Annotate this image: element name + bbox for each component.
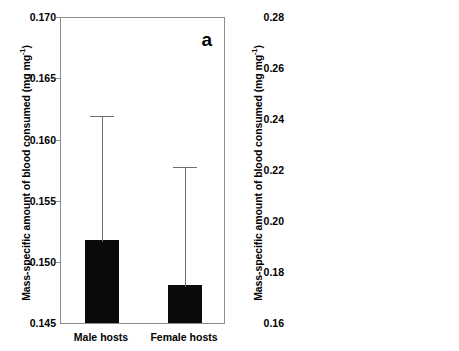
panel-b-ytick-028: 0.28	[264, 12, 284, 22]
panel-a-tick-mark-0	[56, 17, 61, 18]
bar-male-hosts[interactable]	[85, 240, 119, 323]
panel-a-ytick-0150: 0.150	[30, 257, 56, 267]
panel-a-xlabel-male: Male hosts	[74, 330, 128, 344]
panel-a-ytick-0145: 0.145	[30, 318, 56, 328]
panel-a-letter: a	[201, 30, 212, 49]
errorbar-cap-male-hosts	[90, 116, 114, 117]
panel-b-ytick-026: 0.26	[264, 63, 284, 73]
panel-a-tick-mark-3	[56, 201, 61, 202]
panel-a-ytick-0160: 0.160	[30, 135, 56, 145]
panel-b-y-tick-labels: 0.28 0.26 0.24 0.22 0.20 0.18 0.16	[244, 0, 284, 351]
panel-a-tick-mark-4	[56, 262, 61, 263]
panel-b-ytick-018: 0.18	[264, 267, 284, 277]
panel-a: Mass-specific amount of blood consumed (…	[0, 0, 232, 351]
panel-b-ytick-016: 0.16	[264, 318, 284, 328]
panel-a-plot-area: a	[60, 17, 225, 324]
errorbar-line-female-hosts	[185, 167, 186, 287]
panel-a-tick-mark-2	[56, 140, 61, 141]
panel-a-xlabel-female: Female hosts	[150, 330, 217, 344]
figure-container: Mass-specific amount of blood consumed (…	[0, 0, 459, 351]
panel-b-ytick-022: 0.22	[264, 165, 284, 175]
panel-a-y-tick-labels: 0.170 0.165 0.160 0.155 0.150 0.145	[16, 0, 56, 351]
panel-b: Mass-specific amount of blood consumed (…	[232, 0, 459, 351]
panel-a-x-tick-labels: Male hosts Female hosts	[60, 330, 225, 346]
panel-a-ytick-0165: 0.165	[30, 73, 56, 83]
bar-female-hosts[interactable]	[168, 285, 202, 323]
panel-a-tick-mark-1	[56, 78, 61, 79]
panel-b-ytick-020: 0.20	[264, 216, 284, 226]
panel-a-ytick-0155: 0.155	[30, 196, 56, 206]
panel-b-ytick-024: 0.24	[264, 114, 284, 124]
errorbar-cap-female-hosts	[173, 167, 197, 168]
panel-a-ytick-0170: 0.170	[30, 12, 56, 22]
errorbar-line-male-hosts	[102, 116, 103, 242]
